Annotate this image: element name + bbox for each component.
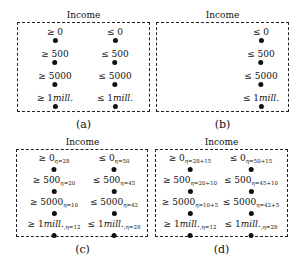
- node-le-5000: ≤ 5000: [98, 71, 131, 87]
- node-label: ≥ 5000η=10: [30, 197, 78, 210]
- node-ge-1mill: ≥ 1mill.,η=12: [164, 219, 217, 238]
- node-dot-icon: [52, 189, 57, 194]
- node-ge-0: ≥ 0η=28: [38, 153, 69, 172]
- node-dot-icon: [187, 211, 192, 216]
- panel-d-title: Income: [155, 137, 288, 147]
- node-le-1mill: ≤ 1mill.: [97, 93, 133, 109]
- node-le-1mill: ≤ 1mill.: [243, 93, 279, 109]
- node-label: ≥ 1mill.,η=12: [164, 219, 217, 232]
- node-label: ≥ 0η=28+15: [169, 153, 212, 166]
- node-dot-icon: [248, 211, 253, 216]
- panel-c-box: ≥ 0η=28≥ 500η=20≥ 5000η=10≥ 1mill.,η=12≤…: [16, 149, 148, 237]
- node-label: ≤ 0: [253, 27, 269, 37]
- node-dot-icon: [112, 189, 117, 194]
- node-le-500: ≤ 500: [101, 49, 129, 65]
- node-label: ≤ 0η=50+15: [230, 153, 273, 166]
- panel-b-title: Income: [156, 10, 289, 20]
- node-ge-500: ≥ 500η=20: [33, 175, 76, 194]
- node-ge-0: ≥ 0η=28+15: [169, 153, 212, 172]
- node-dot-icon: [187, 189, 192, 194]
- node-dot-icon: [258, 104, 263, 109]
- panel-c-caption: (c): [16, 243, 149, 256]
- node-ge-5000: ≥ 5000η=10+5: [162, 197, 218, 216]
- node-dot-icon: [249, 167, 254, 172]
- node-ge-0: ≥ 0: [47, 27, 63, 43]
- node-dot-icon: [52, 38, 57, 43]
- node-ge-5000: ≥ 5000η=10: [30, 197, 78, 216]
- panel-b-box: ≤ 0≤ 500≤ 5000≤ 1mill.: [156, 22, 289, 112]
- node-le-1mill: ≤ 1mill.,η=28: [225, 219, 278, 238]
- node-le-5000: ≤ 5000η=42+5: [223, 197, 279, 216]
- node-dot-icon: [52, 104, 57, 109]
- panel-d-caption: (d): [155, 243, 288, 256]
- node-label: ≤ 5000η=42: [90, 197, 138, 210]
- node-label: ≥ 500: [41, 49, 69, 59]
- node-label: ≤ 0: [107, 27, 123, 37]
- node-dot-icon: [248, 189, 253, 194]
- node-le-5000: ≤ 5000η=42: [90, 197, 138, 216]
- node-dot-icon: [112, 211, 117, 216]
- panel-d-box: ≥ 0η=28+15≥ 500η=20+10≥ 5000η=10+5≥ 1mil…: [155, 149, 288, 237]
- node-dot-icon: [111, 167, 116, 172]
- node-le-5000: ≤ 5000: [244, 71, 277, 87]
- panel-b-caption: (b): [156, 118, 289, 131]
- node-dot-icon: [112, 104, 117, 109]
- node-label: ≥ 500η=20+10: [163, 175, 217, 188]
- node-label: ≥ 1mill.,η=12: [28, 219, 81, 232]
- panel-a-box: ≥ 0≥ 500≥ 5000≥ 1mill.≤ 0≤ 500≤ 5000≤ 1m…: [17, 22, 150, 112]
- node-dot-icon: [258, 38, 263, 43]
- node-le-0: ≤ 0η=50: [98, 153, 129, 172]
- node-dot-icon: [111, 233, 116, 238]
- node-ge-500: ≥ 500: [41, 49, 69, 65]
- node-label: ≥ 0η=28: [38, 153, 69, 166]
- node-le-0: ≤ 0: [253, 27, 269, 43]
- node-dot-icon: [51, 167, 56, 172]
- node-label: ≥ 1mill.: [37, 93, 73, 103]
- panel-a-caption: (a): [17, 118, 150, 131]
- node-label: ≤ 500: [101, 49, 129, 59]
- node-label: ≤ 5000η=42+5: [223, 197, 279, 210]
- node-dot-icon: [53, 60, 58, 65]
- node-dot-icon: [259, 60, 264, 65]
- node-ge-1mill: ≥ 1mill.,η=12: [28, 219, 81, 238]
- node-label: ≤ 500: [247, 49, 275, 59]
- node-le-1mill: ≤ 1mill.,η=28: [88, 219, 141, 238]
- node-label: ≤ 0η=50: [98, 153, 129, 166]
- node-le-500: ≤ 500η=45: [93, 175, 136, 194]
- node-ge-500: ≥ 500η=20+10: [163, 175, 217, 194]
- node-label: ≤ 500η=45+10: [224, 175, 278, 188]
- node-label: ≥ 500η=20: [33, 175, 76, 188]
- node-ge-1mill: ≥ 1mill.: [37, 93, 73, 109]
- node-label: ≤ 1mill.,η=28: [88, 219, 141, 232]
- node-dot-icon: [53, 82, 58, 87]
- node-le-500: ≤ 500η=45+10: [224, 175, 278, 194]
- node-le-0: ≤ 0η=50+15: [230, 153, 273, 172]
- panel-c-title: Income: [16, 137, 149, 147]
- node-le-500: ≤ 500: [247, 49, 275, 65]
- node-label: ≤ 500η=45: [93, 175, 136, 188]
- panel-a-title: Income: [17, 10, 150, 20]
- node-dot-icon: [259, 82, 264, 87]
- node-le-0: ≤ 0: [107, 27, 123, 43]
- node-label: ≤ 1mill.: [97, 93, 133, 103]
- node-dot-icon: [113, 60, 118, 65]
- node-dot-icon: [51, 233, 56, 238]
- node-dot-icon: [188, 167, 193, 172]
- node-dot-icon: [52, 211, 57, 216]
- node-label: ≤ 5000: [98, 71, 131, 81]
- node-label: ≥ 0: [47, 27, 63, 37]
- node-label: ≤ 5000: [244, 71, 277, 81]
- node-label: ≤ 1mill.,η=28: [225, 219, 278, 232]
- node-dot-icon: [187, 233, 192, 238]
- node-label: ≥ 5000: [38, 71, 71, 81]
- node-dot-icon: [248, 233, 253, 238]
- node-label: ≤ 1mill.: [243, 93, 279, 103]
- node-dot-icon: [113, 82, 118, 87]
- node-ge-5000: ≥ 5000: [38, 71, 71, 87]
- node-label: ≥ 5000η=10+5: [162, 197, 218, 210]
- node-dot-icon: [112, 38, 117, 43]
